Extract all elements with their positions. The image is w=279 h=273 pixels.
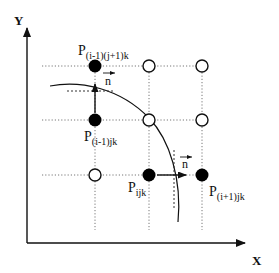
y-axis-label: Y: [14, 13, 24, 28]
interface-curve: [50, 84, 179, 222]
node-p-im1-j-k: [89, 114, 102, 127]
label-p-im1-jp1-k: P(i-1)(j+1)k: [78, 43, 129, 62]
node-p-im1-jp1-k: [89, 60, 102, 73]
label-p-i-j-k: Pijk: [128, 180, 146, 198]
tangent-lines: [67, 91, 174, 210]
label-p-ip1-j-k: P(i+1)jk: [209, 184, 245, 203]
grid-lines: [42, 66, 202, 230]
open-node: [196, 60, 208, 72]
point-labels: P(i-1)(j+1)k P(i-1)jk Pijk P(i+1)jk: [78, 43, 245, 203]
stencil-diagram: Y X P(i-1)(j+1)k: [0, 0, 279, 273]
x-axis-label: X: [252, 253, 262, 268]
normal-label-lower: n: [182, 157, 188, 171]
open-node: [196, 114, 208, 126]
open-node: [143, 114, 155, 126]
normal-label-upper: n: [105, 74, 111, 88]
open-node: [143, 60, 155, 72]
label-p-im1-j-k: P(i-1)jk: [84, 129, 117, 148]
node-p-ip1-j-k: [196, 169, 209, 182]
axes: Y X: [14, 13, 262, 268]
open-node: [89, 169, 101, 181]
node-p-i-j-k: [143, 169, 156, 182]
